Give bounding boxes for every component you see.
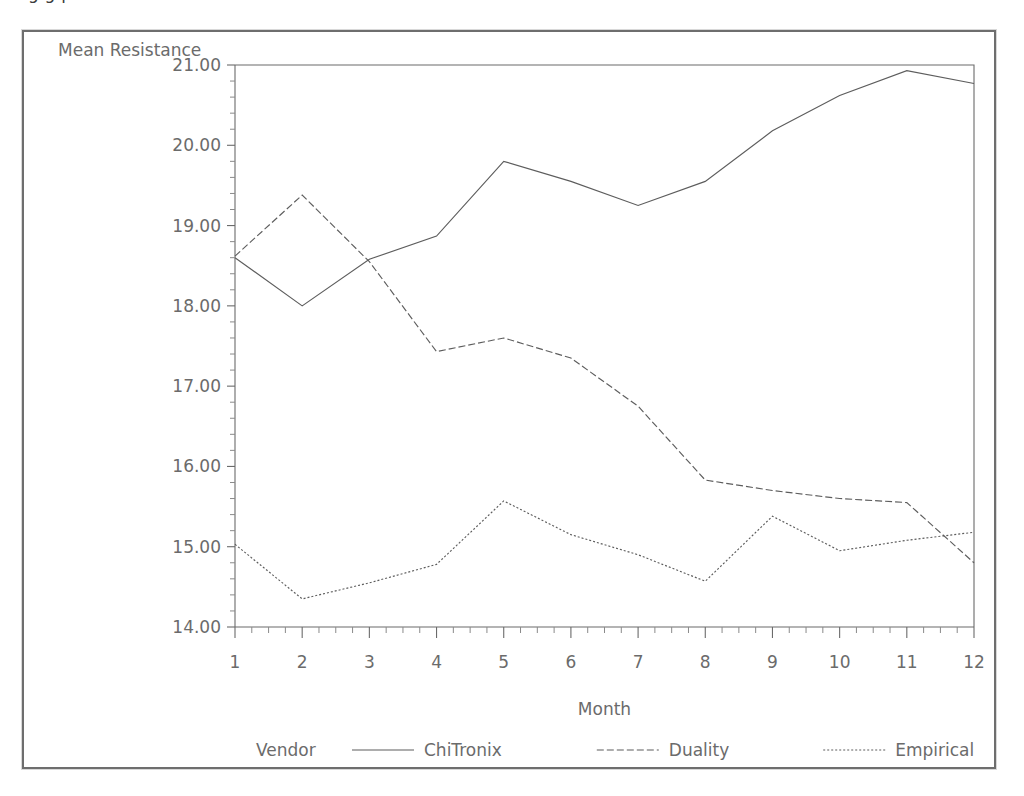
figure-frame: Mean Resistance14.0015.0016.0017.0018.00… — [22, 30, 996, 769]
series-line-chitronix — [235, 71, 974, 306]
x-tick-label: 12 — [963, 652, 985, 672]
x-tick-label: 10 — [829, 652, 851, 672]
series-line-empirical — [235, 501, 974, 599]
x-tick-label: 8 — [700, 652, 711, 672]
y-tick-label: 21.00 — [172, 55, 221, 75]
clipped-caption-strip: g g p — [0, 0, 1024, 14]
x-tick-label: 4 — [431, 652, 442, 672]
y-tick-label: 19.00 — [172, 216, 221, 236]
legend-label-duality: Duality — [669, 740, 729, 760]
x-tick-label: 2 — [297, 652, 308, 672]
y-tick-label: 15.00 — [172, 537, 221, 557]
legend-label-chitronix: ChiTronix — [424, 740, 502, 760]
y-tick-label: 17.00 — [172, 376, 221, 396]
x-tick-label: 3 — [364, 652, 375, 672]
legend-title: Vendor — [256, 740, 316, 760]
x-tick-label: 1 — [230, 652, 241, 672]
y-tick-label: 16.00 — [172, 456, 221, 476]
legend-label-empirical: Empirical — [895, 740, 974, 760]
x-tick-label: 11 — [896, 652, 918, 672]
x-axis-title: Month — [578, 699, 631, 719]
plot-border-box — [235, 65, 974, 627]
x-tick-label: 9 — [767, 652, 778, 672]
x-tick-label: 7 — [633, 652, 644, 672]
x-tick-label: 5 — [498, 652, 509, 672]
clipped-caption-text: g g p — [28, 0, 72, 3]
plot-area: Mean Resistance14.0015.0016.0017.0018.00… — [24, 32, 994, 767]
y-tick-label: 20.00 — [172, 135, 221, 155]
series-line-duality — [235, 195, 974, 563]
x-tick-label: 6 — [565, 652, 576, 672]
y-tick-label: 18.00 — [172, 296, 221, 316]
line-chart: Mean Resistance14.0015.0016.0017.0018.00… — [24, 32, 994, 767]
y-tick-label: 14.00 — [172, 617, 221, 637]
